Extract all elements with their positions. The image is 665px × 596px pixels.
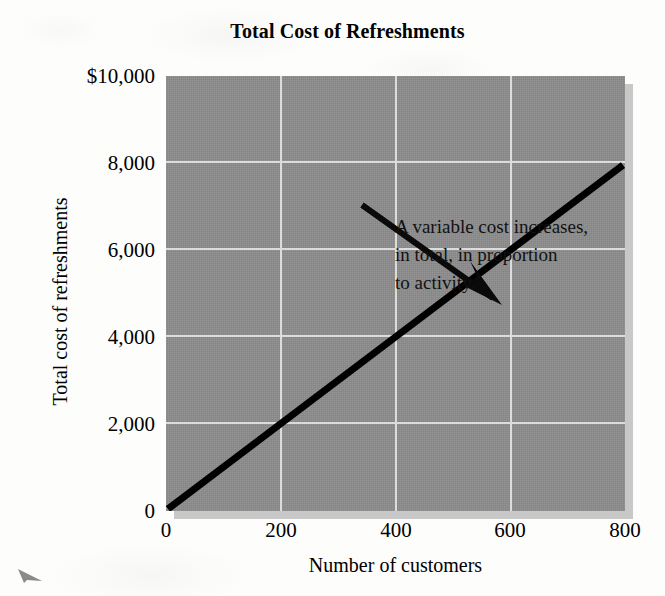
x-tick-200: 200 (241, 520, 321, 541)
x-axis-label: Number of customers (166, 554, 625, 577)
x-tick-400: 400 (356, 520, 436, 541)
x-tick-0: 0 (126, 520, 206, 541)
annotation-line-3: to activity. (395, 269, 625, 297)
plot-area: A variable cost increases, in total, in … (166, 76, 625, 511)
y-axis-label: Total cost of refreshments (49, 92, 72, 512)
annotation-line-2: in total, in proportion (395, 241, 625, 269)
variable-cost-chart-figure: Total Cost of Refreshments A variable co… (0, 0, 665, 596)
x-tick-600: 600 (470, 520, 550, 541)
stray-arrow-mark-icon (18, 568, 44, 584)
x-tick-800: 800 (585, 520, 665, 541)
annotation-line-1: A variable cost increases, (395, 213, 625, 241)
y-tick-10000: $10,000 (45, 66, 155, 87)
annotation-text: A variable cost increases, in total, in … (395, 213, 625, 297)
